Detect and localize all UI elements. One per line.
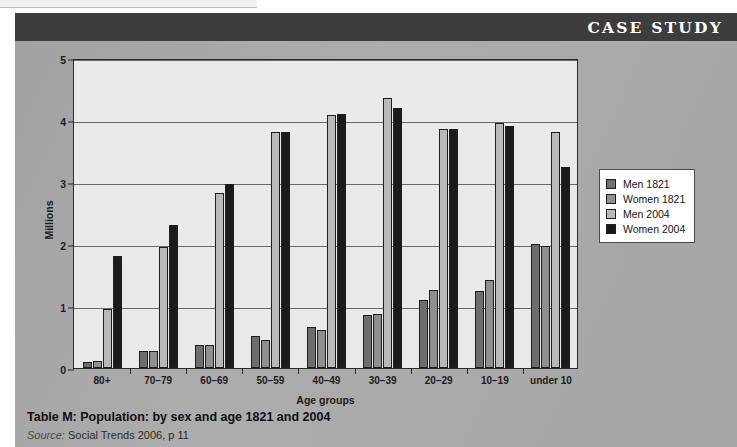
x-tick-mark: [355, 368, 356, 374]
top-strip: [0, 0, 257, 8]
bar: [327, 115, 336, 368]
bar: [337, 114, 346, 368]
bar: [551, 132, 560, 368]
y-tick-label: 5: [60, 54, 66, 66]
content-panel: Millions 012345 80+70–7960–6950–5940–493…: [15, 41, 737, 447]
bar: [439, 129, 448, 368]
bar-group: [355, 60, 411, 368]
bar: [317, 330, 326, 368]
chart-legend: Men 1821Women 1821Men 2004Women 2004: [599, 169, 695, 243]
legend-item: Women 1821: [606, 191, 685, 206]
legend-item: Men 1821: [606, 176, 685, 191]
bar: [251, 336, 260, 368]
x-axis-title: Age groups: [73, 394, 578, 406]
case-study-title: CASE STUDY: [587, 18, 723, 37]
bar: [429, 290, 438, 368]
legend-item: Men 2004: [606, 206, 685, 221]
bar-group: [298, 60, 354, 368]
x-tick-mark: [411, 368, 412, 374]
bar: [113, 256, 122, 368]
x-tick-label: 20–29: [425, 375, 453, 386]
bar-series-container: [74, 60, 577, 368]
bar: [195, 345, 204, 368]
x-tick-label: 70–79: [144, 375, 172, 386]
y-axis-title: Millions: [43, 200, 55, 239]
bar-group: [74, 60, 130, 368]
y-tick-label: 0: [60, 364, 66, 376]
bar: [139, 351, 148, 368]
y-tick-mark: [68, 370, 74, 371]
bar: [485, 280, 494, 368]
source-label: Source:: [27, 429, 65, 441]
bar: [159, 247, 168, 368]
legend-item-label: Women 2004: [623, 223, 685, 235]
chart-figure: Millions 012345 80+70–7960–6950–5940–493…: [15, 41, 615, 396]
bar: [363, 315, 372, 368]
x-tick-label: 40–49: [313, 375, 341, 386]
bar: [419, 300, 428, 368]
legend-swatch-icon: [606, 194, 616, 204]
x-tick-label: under 10: [530, 375, 572, 386]
legend-swatch-icon: [606, 179, 616, 189]
bar-group: [467, 60, 523, 368]
bar: [261, 340, 270, 368]
bar-group: [186, 60, 242, 368]
y-tick-label: 1: [60, 302, 66, 314]
legend-item: Women 2004: [606, 221, 685, 236]
y-tick-label: 3: [60, 178, 66, 190]
bar: [449, 129, 458, 368]
bar: [541, 246, 550, 368]
x-tick-label: 80+: [94, 375, 111, 386]
legend-item-label: Women 1821: [623, 193, 685, 205]
bar: [383, 98, 392, 368]
bar: [149, 351, 158, 368]
page-root: CASE STUDY Millions 012345 80+70–7960–69…: [0, 0, 737, 447]
x-tick-mark: [130, 368, 131, 374]
plot-area: 012345 80+70–7960–6950–5940–4930–3920–29…: [73, 59, 578, 369]
bar: [373, 314, 382, 368]
legend-item-label: Men 2004: [623, 208, 670, 220]
figure-caption-title: Table M: Population: by sex and age 1821…: [27, 410, 330, 424]
legend-item-label: Men 1821: [623, 178, 670, 190]
bar: [505, 126, 514, 368]
bar: [561, 167, 570, 369]
bar: [215, 193, 224, 368]
bar: [495, 123, 504, 368]
bar-group: [130, 60, 186, 368]
legend-swatch-icon: [606, 209, 616, 219]
bar-group: [411, 60, 467, 368]
x-tick-mark: [298, 368, 299, 374]
bar: [83, 362, 92, 368]
figure-caption-source: Source: Social Trends 2006, p 11: [27, 429, 189, 441]
bar: [307, 327, 316, 368]
x-tick-mark: [467, 368, 468, 374]
bar-group: [242, 60, 298, 368]
bar: [531, 244, 540, 368]
y-tick-label: 2: [60, 240, 66, 252]
source-text: Social Trends 2006, p 11: [68, 429, 189, 441]
y-tick-label: 4: [60, 116, 66, 128]
x-tick-label: 30–39: [369, 375, 397, 386]
bar-group: [523, 60, 579, 368]
bar: [271, 132, 280, 368]
bar: [281, 132, 290, 368]
x-tick-label: 10–19: [481, 375, 509, 386]
x-tick-mark: [186, 368, 187, 374]
x-tick-mark: [523, 368, 524, 374]
bar: [205, 345, 214, 368]
bar: [169, 225, 178, 368]
legend-swatch-icon: [606, 224, 616, 234]
case-study-header-band: CASE STUDY: [15, 13, 737, 41]
bar: [225, 184, 234, 368]
bar: [93, 361, 102, 368]
x-tick-label: 60–69: [200, 375, 228, 386]
x-tick-label: 50–59: [256, 375, 284, 386]
bar: [103, 309, 112, 368]
bar: [475, 291, 484, 368]
x-tick-mark: [242, 368, 243, 374]
bar: [393, 108, 402, 368]
